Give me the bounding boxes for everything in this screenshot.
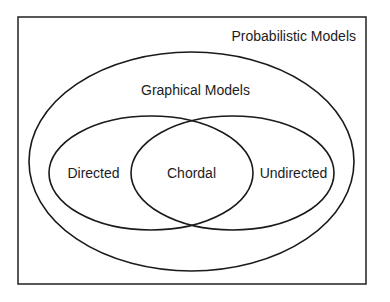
directed-label: Directed (67, 165, 119, 181)
venn-diagram: Probabilistic Models Graphical Models Di… (0, 0, 390, 302)
graphical-models-label: Graphical Models (141, 82, 250, 98)
probabilistic-models-label: Probabilistic Models (232, 28, 357, 44)
chordal-label: Chordal (167, 165, 216, 181)
undirected-label: Undirected (260, 165, 328, 181)
probabilistic-models-box (18, 17, 366, 284)
